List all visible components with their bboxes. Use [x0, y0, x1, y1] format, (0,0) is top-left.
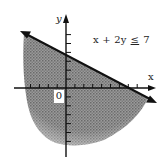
inequality-rhs: 7: [143, 34, 150, 45]
y-axis-label: y: [56, 14, 62, 24]
x-axis-label: x: [148, 72, 154, 82]
boundary-arrow-right-icon: [146, 96, 157, 104]
inequality-graph: [0, 0, 164, 165]
origin-label: 0: [54, 90, 64, 103]
inequality-label: x + 2y≤7: [93, 35, 150, 45]
inequality-lhs: x + 2y: [93, 34, 127, 45]
inequality-operator: ≤: [131, 34, 140, 45]
